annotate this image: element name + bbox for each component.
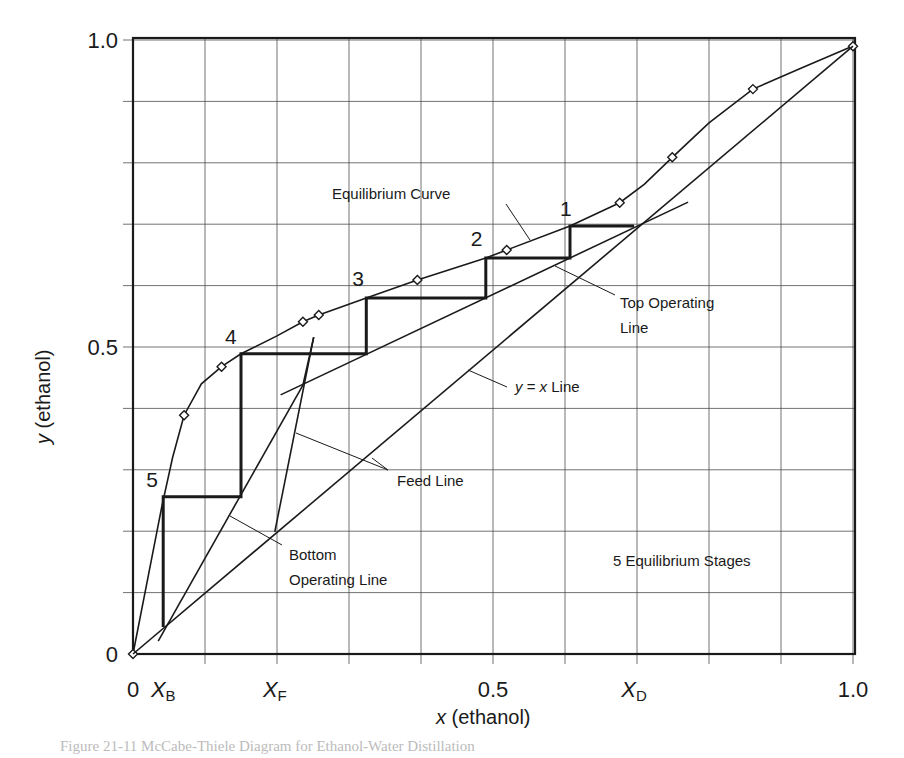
leader-bottom-operating-line (230, 516, 282, 545)
x-tick-label: XD (620, 677, 647, 704)
stage-number-1: 1 (560, 197, 572, 220)
stage-number-3: 3 (352, 267, 364, 290)
x-axis-rest: (ethanol) (446, 706, 531, 728)
label-feed-line: Feed Line (397, 472, 464, 489)
label-equilibrium-curve: Equilibrium Curve (332, 185, 450, 202)
y-tick-label: 1.0 (87, 28, 118, 53)
label-stage-count: 5 Equilibrium Stages (613, 552, 751, 569)
label-yx-rest: Line (547, 378, 580, 395)
mccabe-thiele-diagram: Equilibrium Curve Top Operating Line y =… (0, 0, 904, 758)
x-tick-label: XF (262, 677, 287, 704)
x-tick-label: 1.0 (838, 677, 869, 702)
label-top-operating-line-2: Line (620, 319, 648, 336)
y-tick-label: 0 (106, 642, 118, 667)
label-yx-line: y = x Line (514, 378, 580, 395)
stage-number-4: 4 (225, 325, 237, 348)
label-yx-eq: = (523, 378, 540, 395)
bottom-operating-line-line (158, 385, 303, 641)
diamond-marker (314, 311, 323, 320)
y-axis-rest: (ethanol) (32, 350, 54, 435)
y-axis-ticks: 00.51.0 (87, 28, 118, 667)
label-bottom-operating-line-2: Operating Line (289, 571, 387, 588)
x-axis-title: x (ethanol) (435, 706, 531, 728)
figure-caption: Figure 21-11 McCabe-Thiele Diagram for E… (60, 738, 475, 755)
leader-yx-line (468, 370, 507, 387)
feed-line-upper-extension-line (303, 337, 314, 385)
stage-number-5: 5 (146, 468, 158, 491)
diamond-marker (502, 245, 511, 254)
leader-equilibrium-curve (506, 204, 530, 240)
x-tick-label: 0 (127, 677, 139, 702)
label-top-operating-line-1: Top Operating (620, 294, 714, 311)
leader-lines (230, 204, 615, 545)
label-bottom-operating-line-1: Bottom (289, 546, 337, 563)
stage-number-2: 2 (471, 227, 483, 250)
x-tick-label: XB (150, 677, 176, 704)
y-tick-label: 0.5 (87, 335, 118, 360)
y-axis-title: y (ethanol) (32, 350, 54, 447)
stage-labels: 12345 (146, 197, 571, 491)
diamond-marker (298, 317, 307, 326)
x-tick-label: 0.5 (478, 677, 509, 702)
diamond-marker (180, 411, 189, 420)
x-axis-ticks: 0XBXF0.5XD1.0 (127, 677, 868, 704)
leader-feed-line-a (296, 433, 388, 470)
